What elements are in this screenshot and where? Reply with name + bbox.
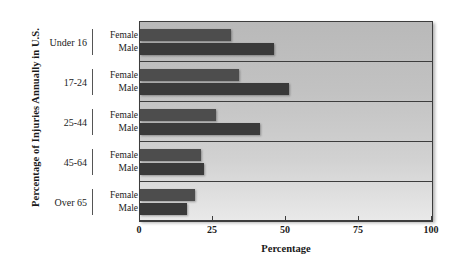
category-label: 17-24 [64, 77, 92, 88]
chart-figure: Percentage of Injuries Annually in U.S. … [0, 0, 465, 268]
bar-female [140, 69, 239, 81]
category-group-row: 45-64 Female Male [28, 142, 138, 182]
group-tick-icon [92, 69, 93, 95]
x-axis-tick-label: 50 [280, 224, 290, 235]
group-tick-icon [92, 149, 93, 175]
series-label-pair: Female Male [98, 109, 138, 135]
bar-male [140, 43, 274, 55]
group-tick-icon [92, 109, 93, 135]
series-label-pair: Female Male [98, 149, 138, 175]
bar-group [140, 22, 432, 61]
category-group-row: Under 16 Female Male [28, 22, 138, 62]
x-axis-title: Percentage [139, 243, 433, 254]
x-axis-tick [139, 216, 140, 221]
category-group-row: 17-24 Female Male [28, 62, 138, 102]
category-group-row: 25-44 Female Male [28, 102, 138, 142]
bar-female [140, 189, 195, 201]
series-label-female: Female [98, 149, 138, 162]
category-label: Under 16 [50, 37, 93, 48]
category-label-column: Under 16 Female Male 17-24 Female Male 2… [28, 22, 138, 220]
x-axis-line [139, 221, 433, 222]
series-label-male: Male [98, 122, 138, 135]
series-label-male: Male [98, 202, 138, 215]
group-tick-icon [92, 189, 93, 215]
category-label: 45-64 [64, 157, 92, 168]
series-label-pair: Female Male [98, 69, 138, 95]
bar-group [140, 102, 432, 141]
series-label-male: Male [98, 82, 138, 95]
group-tick-icon [92, 29, 93, 55]
x-axis-tick-label: 0 [137, 224, 142, 235]
series-label-male: Male [98, 42, 138, 55]
series-label-female: Female [98, 189, 138, 202]
series-label-male: Male [98, 162, 138, 175]
bar-female [140, 29, 231, 41]
bar-male [140, 163, 204, 175]
series-label-pair: Female Male [98, 189, 138, 215]
series-label-female: Female [98, 109, 138, 122]
category-label: Over 65 [55, 197, 93, 208]
bar-group [140, 182, 432, 221]
bar-female [140, 109, 216, 121]
bar-male [140, 83, 289, 95]
x-axis-tick-label: 100 [424, 224, 439, 235]
series-label-female: Female [98, 69, 138, 82]
x-axis-tick [431, 216, 432, 221]
x-axis-tick [285, 216, 286, 221]
bar-group [140, 142, 432, 181]
x-axis-tick [358, 216, 359, 221]
plot-area [139, 21, 433, 221]
bar-male [140, 123, 260, 135]
category-group-row: Over 65 Female Male [28, 182, 138, 222]
x-axis-tick [212, 216, 213, 221]
x-axis-tick-label: 75 [353, 224, 363, 235]
category-label: 25-44 [64, 117, 92, 128]
bar-female [140, 149, 201, 161]
series-label-pair: Female Male [98, 29, 138, 55]
bar-group [140, 62, 432, 101]
bar-male [140, 203, 187, 215]
series-label-female: Female [98, 29, 138, 42]
x-axis-tick-label: 25 [207, 224, 217, 235]
